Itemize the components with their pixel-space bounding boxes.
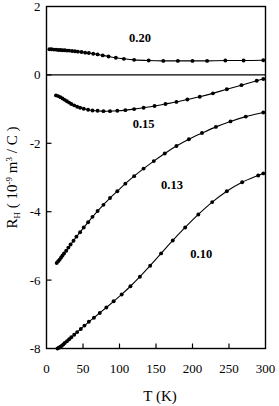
data-point-marker bbox=[115, 189, 119, 193]
data-point-marker bbox=[112, 299, 116, 303]
y-tick-label: -4 bbox=[30, 204, 41, 219]
data-point-marker bbox=[108, 196, 112, 200]
data-point-marker bbox=[83, 51, 87, 55]
data-point-marker bbox=[152, 159, 156, 163]
data-point-marker bbox=[96, 109, 100, 113]
series-label-0-13: 0.13 bbox=[161, 178, 183, 192]
x-tick-label: 300 bbox=[256, 361, 276, 376]
data-point-marker bbox=[78, 106, 82, 110]
data-point-marker bbox=[82, 107, 86, 111]
data-point-marker bbox=[101, 53, 105, 57]
data-point-marker bbox=[142, 106, 146, 110]
data-point-marker bbox=[148, 264, 152, 268]
data-point-marker bbox=[205, 59, 209, 63]
data-point-marker bbox=[96, 52, 100, 56]
data-point-marker bbox=[115, 109, 119, 113]
data-point-marker bbox=[92, 316, 96, 320]
data-point-marker bbox=[239, 83, 243, 87]
series-0-13: 0.13 bbox=[55, 111, 265, 265]
data-point-marker bbox=[261, 171, 265, 175]
data-point-marker bbox=[72, 333, 76, 337]
data-point-marker bbox=[223, 59, 227, 63]
data-point-marker bbox=[191, 59, 195, 63]
data-point-marker bbox=[153, 104, 157, 108]
chart-svg: 20-2-4-6-8050100150200250300T (K)RH ( 10… bbox=[0, 0, 279, 406]
data-point-marker bbox=[91, 215, 95, 219]
x-tick-label: 0 bbox=[43, 361, 50, 376]
data-point-marker bbox=[138, 275, 142, 279]
chart-figure: 20-2-4-6-8050100150200250300T (K)RH ( 10… bbox=[0, 0, 279, 406]
data-point-marker bbox=[91, 52, 95, 56]
data-point-marker bbox=[225, 189, 229, 193]
data-point-marker bbox=[261, 58, 265, 62]
data-point-marker bbox=[200, 131, 204, 135]
series-0-10: 0.10 bbox=[56, 171, 266, 350]
data-point-marker bbox=[87, 51, 91, 55]
data-point-marker bbox=[242, 59, 246, 63]
x-tick-label: 250 bbox=[219, 361, 239, 376]
series-0-20: 0.20 bbox=[47, 31, 265, 62]
data-point-marker bbox=[255, 79, 259, 83]
data-point-marker bbox=[108, 109, 112, 113]
data-point-marker bbox=[261, 77, 265, 81]
data-point-marker bbox=[132, 174, 136, 178]
data-point-marker bbox=[198, 95, 202, 99]
data-point-marker bbox=[75, 330, 79, 334]
data-point-marker bbox=[123, 108, 127, 112]
data-point-marker bbox=[171, 238, 175, 242]
data-point-marker bbox=[132, 107, 136, 111]
data-point-marker bbox=[183, 225, 187, 229]
data-point-marker bbox=[114, 56, 118, 60]
data-point-marker bbox=[101, 109, 105, 113]
data-point-marker bbox=[229, 119, 233, 123]
data-point-marker bbox=[83, 324, 87, 328]
y-tick-label: -6 bbox=[30, 273, 41, 288]
data-point-marker bbox=[69, 243, 73, 247]
data-point-marker bbox=[123, 182, 127, 186]
y-axis-title-text: RH ( 10-9 m3 / C ) bbox=[4, 127, 22, 229]
data-point-marker bbox=[163, 152, 167, 156]
data-point-marker bbox=[86, 220, 90, 224]
y-tick-label: 0 bbox=[34, 67, 41, 82]
series-0-15: 0.15 bbox=[54, 77, 265, 131]
data-point-marker bbox=[164, 102, 168, 106]
data-point-marker bbox=[256, 174, 260, 178]
series-label-0-20: 0.20 bbox=[129, 31, 151, 45]
y-tick-label: -8 bbox=[30, 341, 41, 356]
data-point-marker bbox=[261, 111, 265, 115]
y-tick-label: -2 bbox=[30, 136, 41, 151]
data-point-marker bbox=[196, 212, 200, 216]
x-tick-label: 100 bbox=[110, 361, 130, 376]
x-tick-label: 200 bbox=[183, 361, 203, 376]
data-point-marker bbox=[211, 91, 215, 95]
series-label-0-15: 0.15 bbox=[133, 117, 155, 131]
data-point-marker bbox=[159, 251, 163, 255]
series-label-0-10: 0.10 bbox=[190, 247, 212, 261]
data-point-marker bbox=[225, 87, 229, 91]
x-tick-label: 150 bbox=[146, 361, 166, 376]
data-point-marker bbox=[79, 327, 83, 331]
data-point-marker bbox=[210, 200, 214, 204]
data-point-marker bbox=[72, 239, 76, 243]
data-point-marker bbox=[132, 58, 136, 62]
data-point-marker bbox=[80, 50, 84, 54]
data-point-marker bbox=[161, 59, 165, 63]
plot-frame bbox=[47, 7, 266, 349]
data-point-marker bbox=[82, 225, 86, 229]
x-tick-label: 50 bbox=[77, 361, 90, 376]
data-point-marker bbox=[74, 235, 78, 239]
data-point-marker bbox=[244, 115, 248, 119]
y-tick-label: 2 bbox=[34, 0, 41, 14]
data-point-marker bbox=[96, 209, 100, 213]
data-point-marker bbox=[174, 100, 178, 104]
data-point-marker bbox=[104, 306, 108, 310]
data-point-marker bbox=[98, 311, 102, 315]
data-point-marker bbox=[86, 108, 90, 112]
data-point-marker bbox=[142, 167, 146, 171]
series-line bbox=[56, 79, 263, 111]
data-point-marker bbox=[176, 59, 180, 63]
data-point-marker bbox=[101, 203, 105, 207]
x-axis-title: T (K) bbox=[143, 388, 176, 405]
data-point-marker bbox=[76, 50, 80, 54]
data-point-marker bbox=[91, 109, 95, 113]
